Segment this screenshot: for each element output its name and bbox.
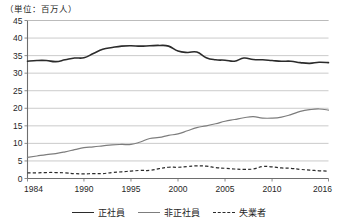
legend-item-hiseishain[interactable]: 非正社員 (138, 206, 200, 219)
axes-group (25, 21, 329, 182)
x-axis-tick-label: 1995 (122, 184, 141, 194)
y-axis-tick-label: 10 (13, 138, 23, 148)
legend-swatch-dashed-line-icon (213, 212, 235, 213)
y-axis-tick-label: 5 (18, 156, 23, 166)
y-axis-tick-label: 40 (13, 33, 23, 43)
legend-label-seishain: 正社員 (98, 206, 125, 219)
x-axis-tick-label: 2016 (313, 184, 332, 194)
y-axis-tick-label: 0 (18, 174, 23, 184)
x-axis-tick-labels: 1984199019952000200520102016 (24, 184, 332, 194)
line-chart-svg: 051015202530354045 198419901995200020052… (0, 0, 337, 222)
legend-swatch-line-icon (138, 212, 160, 213)
legend-item-shitsugyosha[interactable]: 失業者 (213, 206, 266, 219)
y-axis-tick-label: 45 (13, 16, 23, 26)
legend-swatch-line-icon (72, 212, 94, 213)
chart-plot-area: 051015202530354045 198419901995200020052… (0, 0, 337, 222)
gridlines-group (28, 21, 329, 161)
x-axis-tick-label: 2005 (216, 184, 235, 194)
chart-page: （単位：百万人） 051015202530354045 198419901995… (0, 0, 337, 222)
y-axis-tick-label: 20 (13, 103, 23, 113)
x-axis-tick-label: 1984 (24, 184, 43, 194)
legend-item-seishain[interactable]: 正社員 (72, 206, 125, 219)
y-axis-tick-label: 30 (13, 68, 23, 78)
y-axis-tick-label: 25 (13, 86, 23, 96)
chart-legend: 正社員 非正社員 失業者 (0, 206, 337, 219)
x-axis-tick-label: 2010 (263, 184, 282, 194)
series-line-shitsugyosha (28, 166, 329, 174)
series-line-hiseishain (28, 109, 329, 157)
series-line-seishain (28, 45, 329, 63)
legend-label-shitsugyosha: 失業者 (239, 206, 266, 219)
y-axis-tick-labels: 051015202530354045 (13, 16, 23, 184)
y-axis-tick-label: 15 (13, 121, 23, 131)
legend-label-hiseishain: 非正社員 (164, 206, 200, 219)
y-axis-tick-label: 35 (13, 51, 23, 61)
x-axis-tick-label: 1990 (74, 184, 93, 194)
data-series-group (28, 45, 329, 174)
x-axis-tick-label: 2000 (169, 184, 188, 194)
